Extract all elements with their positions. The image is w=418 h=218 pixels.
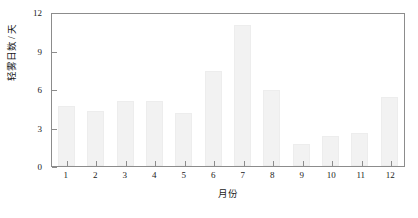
bars-layer (52, 14, 404, 166)
bar[interactable] (263, 90, 280, 166)
x-axis-tick-label: 12 (376, 171, 406, 185)
y-axis-tick-label: 6 (38, 86, 43, 95)
bar[interactable] (234, 25, 251, 166)
x-axis-tick (244, 161, 245, 166)
y-axis-tick (52, 167, 57, 168)
y-axis-tick (52, 13, 57, 14)
bar[interactable] (117, 101, 134, 166)
y-axis-tick-label: 0 (38, 163, 43, 172)
bar-slot (81, 14, 110, 166)
x-axis-title: 月份 (51, 190, 405, 200)
x-axis-tick-label: 5 (169, 171, 199, 185)
bar[interactable] (205, 71, 222, 166)
y-axis-tick-label: 3 (38, 124, 43, 133)
x-axis-tick (96, 161, 97, 166)
x-axis-tick (273, 161, 274, 166)
x-axis-tick (67, 161, 68, 166)
x-axis-tick-labels: 123456789101112 (51, 171, 405, 185)
x-axis-tick (303, 161, 304, 166)
y-axis-tick (52, 129, 57, 130)
bar[interactable] (175, 113, 192, 166)
x-axis-tick (126, 161, 127, 166)
x-axis-tick-label: 3 (110, 171, 140, 185)
x-axis-tick (391, 161, 392, 166)
bar[interactable] (322, 136, 339, 166)
bar-chart-figure: 036912 123456789101112 月份 轻雾日数 / 天 (0, 0, 418, 218)
x-axis-tick-label: 4 (140, 171, 170, 185)
y-axis-title: 轻雾日数 / 天 (8, 0, 18, 113)
x-axis-tick-label: 11 (346, 171, 376, 185)
x-axis-tick-label: 6 (199, 171, 229, 185)
bar[interactable] (351, 133, 368, 166)
y-axis-tick-label: 9 (38, 47, 43, 56)
bar[interactable] (58, 106, 75, 166)
bar-slot (228, 14, 257, 166)
bar-slot (169, 14, 198, 166)
bar-slot (111, 14, 140, 166)
bar-slot (140, 14, 169, 166)
x-axis-tick-label: 2 (81, 171, 111, 185)
x-axis-tick-label: 9 (287, 171, 317, 185)
x-axis-tick (214, 161, 215, 166)
bar[interactable] (87, 111, 104, 166)
bar-slot (375, 14, 404, 166)
x-axis-tick (332, 161, 333, 166)
bar[interactable] (381, 97, 398, 166)
bar-slot (199, 14, 228, 166)
x-axis-tick (185, 161, 186, 166)
bar[interactable] (293, 144, 310, 166)
bar-slot (287, 14, 316, 166)
x-axis-tick-label: 7 (228, 171, 258, 185)
x-axis-tick-label: 8 (258, 171, 288, 185)
plot-area (51, 13, 405, 167)
x-axis-tick-label: 10 (317, 171, 347, 185)
y-axis-tick (52, 52, 57, 53)
y-axis-tick (52, 90, 57, 91)
x-axis-tick (362, 161, 363, 166)
x-axis-tick (155, 161, 156, 166)
bar-slot (316, 14, 345, 166)
y-axis-tick-label: 12 (33, 9, 42, 18)
bar[interactable] (146, 101, 163, 166)
bar-slot (345, 14, 374, 166)
bar-slot (257, 14, 286, 166)
x-axis-tick-label: 1 (51, 171, 81, 185)
